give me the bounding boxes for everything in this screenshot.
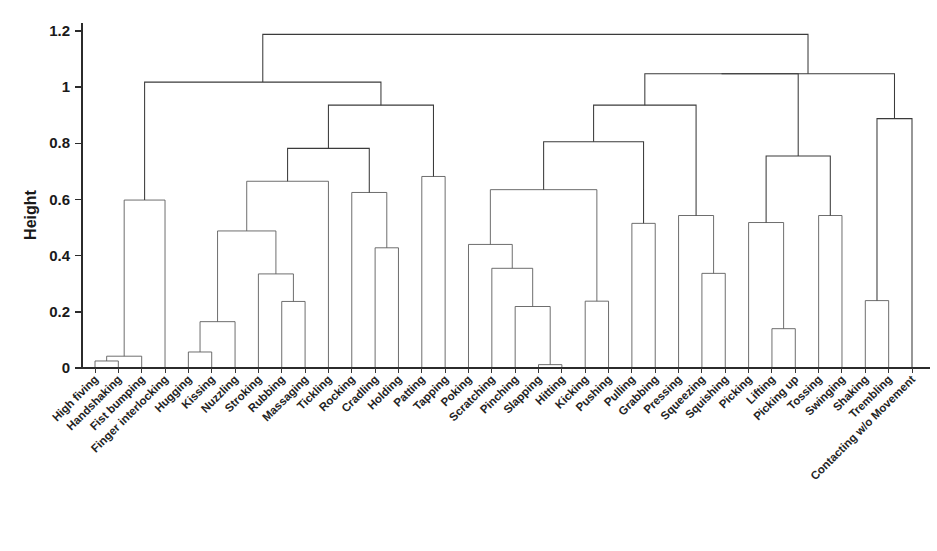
dendrogram-link — [594, 105, 696, 215]
y-axis-title: Height — [22, 189, 39, 239]
dendrogram-link — [490, 190, 597, 301]
dendrogram-link — [468, 244, 512, 368]
dendrogram-link — [645, 74, 798, 156]
y-tick-label: 0.2 — [49, 303, 70, 320]
dendrogram-link — [247, 181, 329, 368]
dendrogram-link — [766, 156, 830, 223]
dendrogram-link — [819, 216, 842, 368]
dendrogram-link — [145, 82, 381, 200]
y-tick-label: 0 — [62, 359, 70, 376]
dendrogram-link — [188, 352, 211, 368]
dendrogram-link — [722, 74, 895, 119]
dendrogram-link — [282, 301, 305, 368]
dendrogram-link — [95, 361, 118, 368]
dendrogram-link — [200, 322, 235, 368]
dendrogram-link — [585, 301, 608, 368]
dendrogram-link — [422, 176, 445, 368]
dendrogram-link — [772, 329, 795, 368]
y-tick-label: 1 — [62, 78, 70, 95]
dendrogram-link — [263, 34, 808, 82]
dendrogram-link — [328, 105, 433, 176]
y-tick-label: 1.2 — [49, 22, 70, 39]
dendrogram-link — [492, 268, 533, 368]
y-axis — [82, 23, 930, 368]
dendrogram-link — [865, 301, 888, 368]
dendrogram-links — [95, 34, 912, 368]
dendrogram-link — [124, 200, 165, 368]
dendrogram-link — [702, 273, 725, 368]
dendrogram-figure: 00.20.40.60.811.2 High fivingHandshaking… — [0, 0, 937, 551]
y-tick-label: 0.8 — [49, 134, 70, 151]
dendrogram-canvas: 00.20.40.60.811.2 High fivingHandshaking… — [0, 0, 937, 551]
dendrogram-link — [258, 274, 293, 368]
y-tick-label: 0.4 — [49, 247, 71, 264]
y-axis-ticks: 00.20.40.60.811.2 — [49, 22, 82, 376]
dendrogram-link — [544, 142, 644, 224]
dendrogram-link — [679, 216, 714, 368]
dendrogram-link — [352, 192, 387, 368]
leaf-labels: High fivingHandshakingFist bumpingFinger… — [50, 373, 918, 482]
dendrogram-link — [375, 248, 398, 368]
dendrogram-link — [749, 223, 784, 368]
dendrogram-link — [107, 356, 142, 368]
dendrogram-link — [218, 231, 276, 322]
dendrogram-link — [877, 119, 912, 368]
y-tick-label: 0.6 — [49, 191, 70, 208]
dendrogram-link — [632, 223, 655, 368]
dendrogram-link — [515, 307, 550, 369]
